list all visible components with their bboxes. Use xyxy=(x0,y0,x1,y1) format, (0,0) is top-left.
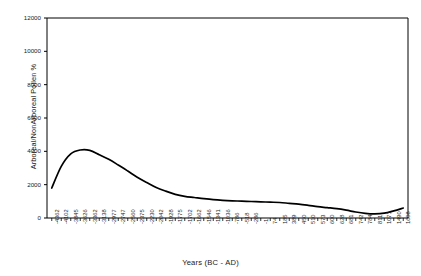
y-tick-label: 2000 xyxy=(11,181,41,188)
x-tick-label: -786 xyxy=(234,213,240,224)
x-tick-label: 450 xyxy=(301,215,307,225)
x-tick-label: -4362 xyxy=(54,209,60,224)
x-tick-label: 1490 xyxy=(396,211,402,224)
x-tick-label: -1928 xyxy=(168,209,174,224)
plot-area xyxy=(0,0,421,276)
x-tick-label: 510 xyxy=(310,215,316,225)
y-tick-label: 10000 xyxy=(11,47,41,54)
x-tick-label: -1036 xyxy=(225,209,231,224)
x-tick-label: 784 xyxy=(367,215,373,225)
x-tick-label: 811 xyxy=(377,215,383,224)
pollen-line-chart: Arboreal/NonArboreal Pollen % Years (BC … xyxy=(0,0,421,276)
x-tick-label: 628 xyxy=(339,215,345,225)
x-tick-label: -2747 xyxy=(120,209,126,224)
x-tick-label: -4102 xyxy=(63,209,69,224)
y-tick-label: 8000 xyxy=(11,81,41,88)
x-tick-label: -1662 xyxy=(196,209,202,224)
x-tick-label: -2230 xyxy=(149,209,155,224)
x-tick-label: -518 xyxy=(244,213,250,224)
x-tick-label: -1 xyxy=(263,219,269,224)
y-tick-label: 6000 xyxy=(11,114,41,121)
axis-frame xyxy=(47,18,408,218)
x-tick-label: -3362 xyxy=(92,209,98,224)
x-tick-label: 681 xyxy=(348,215,354,225)
x-tick-label: -1775 xyxy=(177,209,183,224)
x-tick-label: -2375 xyxy=(139,209,145,224)
x-tick-label: 1071 xyxy=(386,211,392,224)
y-tick-label: 4000 xyxy=(11,147,41,154)
x-tick-label: -2977 xyxy=(111,209,117,224)
x-tick-label: -3626 xyxy=(82,209,88,224)
y-tick-label: 0 xyxy=(11,214,41,221)
x-tick-label: 389 xyxy=(291,215,297,225)
x-tick-label: 573 xyxy=(320,215,326,225)
x-tick-label: 185 xyxy=(282,215,288,225)
x-tick-label: -2560 xyxy=(130,209,136,224)
x-tick-label: 742 xyxy=(358,215,364,225)
x-tick-label: -1546 xyxy=(206,209,212,224)
x-tick-label: -3138 xyxy=(101,209,107,224)
x-tick-label: 1608 xyxy=(405,211,411,224)
x-tick-label: 74 xyxy=(272,218,278,224)
x-tick-label: -3845 xyxy=(73,209,79,224)
x-tick-label: 600 xyxy=(329,215,335,225)
x-tick-label: -286 xyxy=(253,213,259,224)
x-tick-label: -1341 xyxy=(215,209,221,224)
x-tick-label: -2042 xyxy=(158,209,164,224)
x-tick-label: -1702 xyxy=(187,209,193,224)
pollen-curve xyxy=(52,150,404,214)
y-tick-label: 12000 xyxy=(11,14,41,21)
